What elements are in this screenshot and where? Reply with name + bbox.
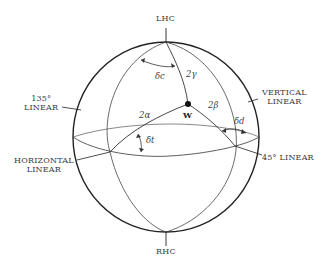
vertical-linear-label: VERTICAL LINEAR bbox=[262, 88, 307, 106]
horizontal-leader bbox=[77, 152, 110, 160]
delta-t-label: δt bbox=[146, 135, 155, 145]
horizontal-line2: LINEAR bbox=[14, 165, 74, 174]
vertical-line1: VERTICAL bbox=[262, 88, 307, 97]
sphere-outline bbox=[73, 42, 259, 232]
linear-135-label: 135° LINEAR bbox=[24, 94, 58, 112]
lhc-label: LHC bbox=[156, 14, 175, 23]
two-beta-label: 2β bbox=[208, 100, 218, 110]
two-gamma-label: 2γ bbox=[186, 69, 197, 79]
delta-c-arc bbox=[141, 60, 175, 67]
linear-135-line2: LINEAR bbox=[24, 103, 58, 112]
poincare-sphere-diagram bbox=[0, 0, 324, 260]
equator bbox=[73, 137, 259, 156]
delta-d-label: δd bbox=[234, 116, 245, 126]
point-w-label: W bbox=[183, 110, 192, 120]
meridian-right bbox=[166, 42, 236, 232]
linear-135-line1: 135° bbox=[24, 94, 58, 103]
horizontal-linear-label: HORIZONTAL LINEAR bbox=[14, 156, 74, 174]
vertical-line2: LINEAR bbox=[262, 97, 307, 106]
rhc-label: RHC bbox=[156, 247, 176, 256]
linear-45-label: 45° LINEAR bbox=[262, 153, 314, 162]
two-alpha-label: 2α bbox=[139, 110, 150, 120]
arc-lhc-w bbox=[166, 42, 188, 104]
equator-back bbox=[73, 124, 259, 137]
delta-c-label: δc bbox=[155, 71, 165, 81]
horizontal-line1: HORIZONTAL bbox=[14, 156, 74, 165]
point-w-marker bbox=[185, 101, 191, 107]
